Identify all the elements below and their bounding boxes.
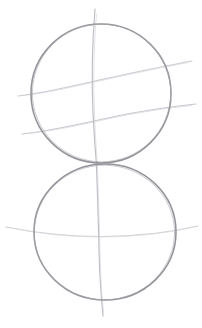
sketch-canvas <box>0 0 202 328</box>
sketch-drawing <box>0 0 202 328</box>
